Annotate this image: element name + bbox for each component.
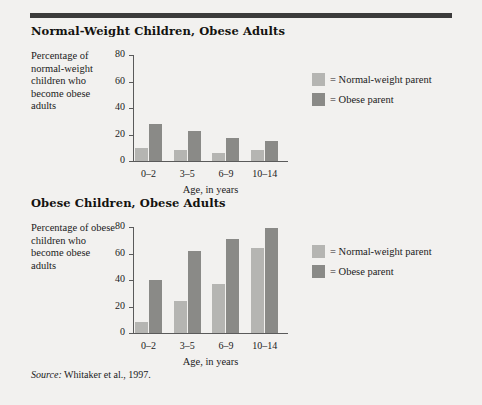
y-axis-tick bbox=[129, 307, 133, 308]
y-axis-tick bbox=[129, 161, 133, 162]
bar-normal-weight-parent-10-14 bbox=[251, 248, 264, 333]
y-axis-tick-label: 20 bbox=[103, 300, 125, 311]
legend-2: = Normal-weight parent = Obese parent bbox=[312, 241, 432, 281]
y-axis-tick bbox=[129, 280, 133, 281]
x-axis-category-label: 3–5 bbox=[168, 168, 207, 179]
legend-item-normal-weight-parent: = Normal-weight parent bbox=[312, 69, 432, 85]
y-axis-tick-label: 60 bbox=[103, 75, 125, 86]
y-axis-tick bbox=[129, 333, 133, 334]
bar-normal-weight-parent-10-14 bbox=[251, 150, 264, 161]
x-axis-category-label: 10–14 bbox=[245, 340, 284, 351]
legend-swatch-obese-parent bbox=[312, 265, 325, 278]
y-axis-tick-label: 20 bbox=[103, 128, 125, 139]
bar-normal-weight-parent-6-9 bbox=[212, 153, 225, 161]
x-axis-line bbox=[133, 333, 288, 334]
y-axis-tick-label: 60 bbox=[103, 247, 125, 258]
legend-label-normal-weight-parent: = Normal-weight parent bbox=[330, 246, 432, 257]
y-axis-tick-label: 40 bbox=[103, 273, 125, 284]
x-axis-title: Age, in years bbox=[133, 184, 288, 195]
x-axis-category-label: 6–9 bbox=[207, 168, 246, 179]
y-axis-tick bbox=[129, 108, 133, 109]
bar-obese-parent-10-14 bbox=[265, 141, 278, 161]
legend-label-obese-parent: = Obese parent bbox=[330, 94, 394, 105]
legend-swatch-normal-weight-parent bbox=[312, 73, 325, 86]
y-axis-tick-label: 80 bbox=[103, 220, 125, 231]
x-axis-title: Age, in years bbox=[133, 356, 288, 367]
plot-area-2: 0204060800–23–56–910–14Age, in years bbox=[133, 227, 288, 333]
chart-title-1: Normal-Weight Children, Obese Adults bbox=[31, 24, 285, 38]
chart-title-2: Obese Children, Obese Adults bbox=[31, 196, 226, 210]
top-rule-divider bbox=[30, 13, 452, 18]
x-axis-category-label: 0–2 bbox=[129, 340, 168, 351]
legend-swatch-normal-weight-parent bbox=[312, 245, 325, 258]
bar-normal-weight-parent-0-2 bbox=[135, 148, 148, 161]
bar-obese-parent-3-5 bbox=[188, 251, 201, 333]
y-axis-line bbox=[133, 55, 134, 161]
y-axis-tick-label: 0 bbox=[103, 326, 125, 337]
source-note: Source: Whitaker et al., 1997. bbox=[31, 369, 151, 380]
bar-normal-weight-parent-3-5 bbox=[174, 150, 187, 161]
bar-obese-parent-6-9 bbox=[226, 239, 239, 333]
x-axis-category-label: 3–5 bbox=[168, 340, 207, 351]
source-note-prefix: Source: bbox=[31, 369, 62, 380]
x-axis-category-label: 10–14 bbox=[245, 168, 284, 179]
legend-swatch-obese-parent bbox=[312, 93, 325, 106]
bar-obese-parent-0-2 bbox=[149, 280, 162, 333]
bar-obese-parent-3-5 bbox=[188, 131, 201, 161]
plot-area-1: 0204060800–23–56–910–14Age, in years bbox=[133, 55, 288, 161]
y-axis-tick-label: 0 bbox=[103, 154, 125, 165]
figure-page: Normal-Weight Children, Obese Adults Per… bbox=[0, 0, 482, 405]
source-note-text: Whitaker et al., 1997. bbox=[64, 369, 151, 380]
y-axis-tick bbox=[129, 254, 133, 255]
y-axis-tick bbox=[129, 135, 133, 136]
x-axis-line bbox=[133, 161, 288, 162]
bar-normal-weight-parent-0-2 bbox=[135, 322, 148, 333]
legend-label-normal-weight-parent: = Normal-weight parent bbox=[330, 74, 432, 85]
y-axis-tick bbox=[129, 227, 133, 228]
bar-obese-parent-0-2 bbox=[149, 124, 162, 161]
bar-normal-weight-parent-3-5 bbox=[174, 301, 187, 333]
legend-1: = Normal-weight parent = Obese parent bbox=[312, 69, 432, 109]
y-axis-tick bbox=[129, 55, 133, 56]
legend-item-obese-parent: = Obese parent bbox=[312, 261, 432, 277]
bar-obese-parent-10-14 bbox=[265, 228, 278, 333]
x-axis-category-label: 0–2 bbox=[129, 168, 168, 179]
legend-item-obese-parent: = Obese parent bbox=[312, 89, 432, 105]
y-axis-tick-label: 80 bbox=[103, 48, 125, 59]
y-axis-tick-label: 40 bbox=[103, 101, 125, 112]
y-axis-tick bbox=[129, 82, 133, 83]
legend-label-obese-parent: = Obese parent bbox=[330, 266, 394, 277]
bar-normal-weight-parent-6-9 bbox=[212, 284, 225, 333]
x-axis-category-label: 6–9 bbox=[207, 340, 246, 351]
bar-obese-parent-6-9 bbox=[226, 138, 239, 161]
y-axis-line bbox=[133, 227, 134, 333]
legend-item-normal-weight-parent: = Normal-weight parent bbox=[312, 241, 432, 257]
